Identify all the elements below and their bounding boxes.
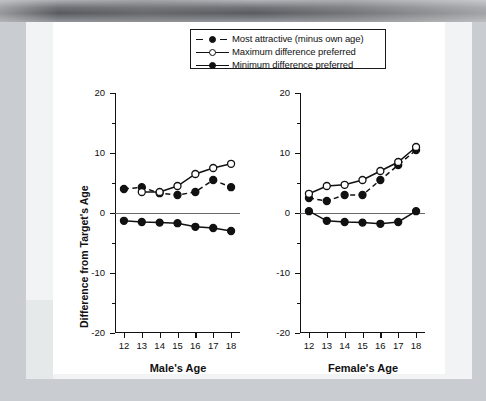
data-point-female-0 bbox=[341, 192, 348, 199]
data-point-female-0 bbox=[323, 198, 330, 205]
data-point-female-2 bbox=[341, 219, 348, 226]
data-point-female-2 bbox=[413, 208, 420, 215]
data-point-female-2 bbox=[377, 220, 384, 227]
data-point-female-2 bbox=[323, 217, 330, 224]
figure-chart: Most attractive (minus own age) Maximum … bbox=[0, 0, 486, 401]
data-point-female-2 bbox=[359, 219, 366, 226]
data-point-female-1 bbox=[359, 177, 366, 184]
data-point-female-1 bbox=[377, 168, 384, 175]
series-layer-female bbox=[0, 0, 486, 401]
data-point-female-0 bbox=[359, 192, 366, 199]
data-point-female-2 bbox=[305, 208, 312, 215]
data-point-female-1 bbox=[341, 181, 348, 188]
data-point-female-1 bbox=[395, 159, 402, 166]
data-point-female-0 bbox=[377, 177, 384, 184]
data-point-female-1 bbox=[323, 183, 330, 190]
data-point-female-2 bbox=[395, 219, 402, 226]
data-point-female-1 bbox=[413, 144, 420, 151]
data-point-female-1 bbox=[305, 190, 312, 197]
